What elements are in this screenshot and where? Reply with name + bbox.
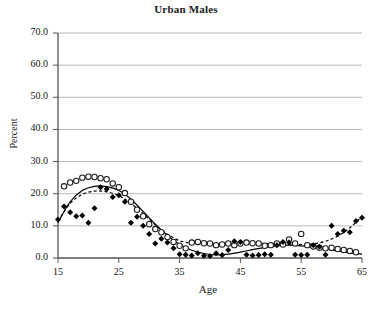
chart-container: Urban Males Percent Age 0.010.020.030.04… [0, 0, 372, 312]
x-tick-label: 15 [38, 266, 78, 277]
y-tick-label: 50.0 [4, 90, 48, 101]
y-tick-label: 60.0 [4, 58, 48, 69]
x-tick-label: 45 [220, 266, 260, 277]
x-tick-label: 35 [160, 266, 200, 277]
x-tick-label: 25 [99, 266, 139, 277]
y-tick-label: 0.0 [4, 251, 48, 262]
y-tick-label: 40.0 [4, 122, 48, 133]
x-tick-label: 55 [281, 266, 321, 277]
y-tick-label: 10.0 [4, 219, 48, 230]
x-tick-label: 65 [342, 266, 372, 277]
data-points [55, 174, 365, 259]
y-tick-label: 70.0 [4, 26, 48, 37]
gridlines [58, 33, 362, 226]
y-tick-label: 20.0 [4, 187, 48, 198]
axis-ticks [53, 33, 362, 263]
y-tick-label: 30.0 [4, 155, 48, 166]
axis-lines [58, 33, 362, 258]
